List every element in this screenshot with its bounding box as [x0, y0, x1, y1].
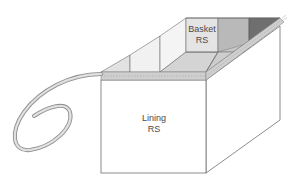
lining-label-line1: Lining	[142, 113, 166, 123]
diagram-canvas: Basket RS Lining RS	[0, 0, 304, 189]
lining-label-line2: RS	[148, 124, 161, 134]
basket-label-line2: RS	[196, 35, 209, 45]
basket-label-line1: Basket	[188, 24, 216, 34]
interior-panel-1	[101, 55, 130, 72]
interior-panel-2	[130, 36, 160, 72]
binding-spiral	[15, 74, 101, 150]
